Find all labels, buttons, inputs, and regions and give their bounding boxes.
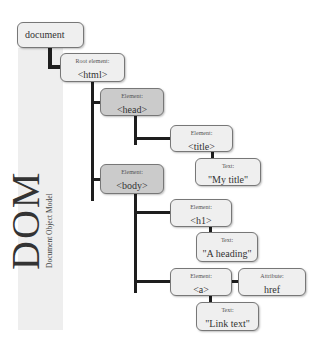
node-value: <html> [61, 69, 124, 80]
node-title-text: Text: "My title" [195, 158, 261, 186]
node-value: <body> [101, 180, 163, 191]
node-a: Element: <a> [170, 268, 232, 296]
node-label: Text: [196, 162, 260, 170]
node-label: Text: [197, 306, 258, 314]
node-a-attribute: Attribute: href [238, 268, 306, 296]
node-value: "My title" [196, 174, 260, 185]
node-label: Attribute: [239, 272, 305, 280]
node-head: Element: <head> [100, 88, 164, 116]
node-value: "A heading" [197, 248, 257, 259]
node-value: href [239, 284, 305, 295]
node-label: Element: [171, 272, 231, 280]
connector-body-h1 [134, 211, 171, 214]
node-html: Root element: <html> [60, 53, 125, 82]
node-value: "Link text" [197, 318, 258, 329]
node-a-text: Text: "Link text" [196, 302, 259, 331]
node-label: Element: [101, 92, 163, 100]
connector-html-trunk [91, 81, 94, 201]
node-title: Element: <title> [170, 125, 233, 152]
connector-body-trunk [134, 193, 137, 293]
node-value: <a> [171, 284, 231, 295]
node-value: <h1> [171, 215, 231, 226]
dom-title: DOM Document Object Model [6, 171, 54, 270]
node-body: Element: <body> [100, 164, 164, 194]
node-label: Root element: [61, 57, 124, 65]
node-document: document [17, 22, 84, 48]
node-value: <title> [171, 141, 232, 152]
node-h1: Element: <h1> [170, 199, 232, 227]
node-label: Element: [171, 203, 231, 211]
connector-body-a [134, 280, 171, 283]
dom-heading: DOM [6, 171, 46, 270]
node-label: Text: [197, 236, 257, 244]
node-label: Element: [171, 129, 232, 137]
node-value: <head> [101, 104, 163, 115]
node-value: document [18, 29, 83, 40]
node-h1-text: Text: "A heading" [196, 232, 258, 262]
connector-head-trunk [134, 115, 137, 145]
connector-head-title [134, 137, 171, 140]
node-label: Element: [101, 168, 163, 176]
